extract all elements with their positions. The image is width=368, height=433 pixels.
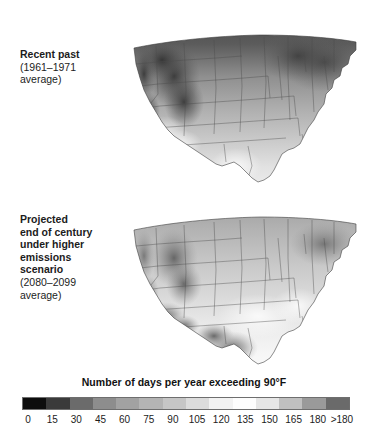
panel-title-line: emissions — [20, 251, 128, 264]
panel-title-line: scenario — [20, 263, 128, 276]
panel-subtitle-line: (1961–1971 — [20, 61, 128, 74]
map-svg-projected — [128, 196, 364, 376]
panel-title-line: Projected — [20, 213, 128, 226]
panel-title-line: Recent past — [20, 48, 128, 61]
colorbar-tick-label: 165 — [282, 413, 306, 426]
colorbar-tick-label: 105 — [185, 413, 209, 426]
colorbar-segment — [279, 398, 302, 409]
colorbar-segment — [139, 398, 162, 409]
colorbar-tick-label: 45 — [88, 413, 112, 426]
colorbar-segment — [326, 398, 349, 409]
panel-label-projected: Projected end of century under higher em… — [20, 213, 128, 301]
colorbar-tick-label: 0 — [16, 413, 40, 426]
colorbar-segment — [116, 398, 139, 409]
colorbar-tick-label: 60 — [113, 413, 137, 426]
map-projected — [128, 196, 364, 376]
legend-title: Number of days per year exceeding 90°F — [0, 376, 368, 388]
colorbar-tick-label: 15 — [40, 413, 64, 426]
colorbar-wrap: 0153045607590105120135150165180>180 — [22, 397, 348, 426]
colorbar — [22, 397, 350, 410]
colorbar-segment — [209, 398, 232, 409]
map-svg-recent-past — [128, 16, 364, 194]
panel-label-recent-past: Recent past (1961–1971 average) — [20, 48, 128, 86]
colorbar-segment — [302, 398, 325, 409]
colorbar-segment — [93, 398, 116, 409]
panel-title-line: end of century — [20, 226, 128, 239]
colorbar-segment — [233, 398, 256, 409]
colorbar-segment — [23, 398, 46, 409]
colorbar-segment — [256, 398, 279, 409]
colorbar-segment — [186, 398, 209, 409]
panel-subtitle-line: average) — [20, 73, 128, 86]
map-recent-past — [128, 16, 364, 194]
colorbar-tick-label: 75 — [137, 413, 161, 426]
heat-field-projected — [128, 196, 364, 376]
colorbar-tick-label: 180 — [306, 413, 330, 426]
colorbar-tick-label: 90 — [161, 413, 185, 426]
colorbar-segment — [46, 398, 69, 409]
panel-title-line: under higher — [20, 238, 128, 251]
colorbar-tick-label: 135 — [233, 413, 257, 426]
colorbar-tick-label: 120 — [209, 413, 233, 426]
climate-map-figure: Recent past (1961–1971 average) — [0, 0, 368, 433]
colorbar-segment — [163, 398, 186, 409]
panel-subtitle-line: (2080–2099 — [20, 276, 128, 289]
colorbar-tick-label: 30 — [64, 413, 88, 426]
colorbar-tick-row: 0153045607590105120135150165180>180 — [16, 413, 354, 426]
colorbar-tick-label: >180 — [330, 413, 354, 426]
legend: Number of days per year exceeding 90°F 0… — [0, 376, 368, 393]
panel-subtitle-line: average) — [20, 289, 128, 302]
colorbar-tick-label: 150 — [257, 413, 281, 426]
colorbar-segment — [70, 398, 93, 409]
